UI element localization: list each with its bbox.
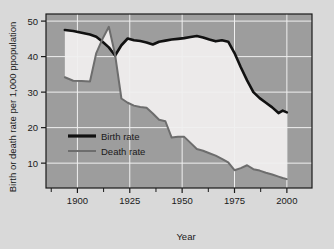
- line-chart: 19001925195019752000 1020304050 Birth ra…: [0, 0, 334, 249]
- x-axis-title: Year: [176, 231, 195, 242]
- y-tick-label: 30: [27, 87, 38, 98]
- y-tick-label: 20: [27, 122, 38, 133]
- y-axis-title: Birth or death rate per 1,000 ppopulatio…: [7, 22, 18, 193]
- chart-figure: 19001925195019752000 1020304050 Birth ra…: [0, 0, 334, 249]
- x-tick-label: 1975: [224, 195, 245, 206]
- y-tick-label: 10: [27, 158, 38, 169]
- y-tick-label: 40: [27, 51, 38, 62]
- legend-label: Death rate: [101, 146, 145, 157]
- x-tick-label: 1950: [172, 195, 193, 206]
- x-tick-label: 1900: [67, 195, 88, 206]
- x-tick-label: 1925: [119, 195, 140, 206]
- x-tick-label: 2000: [276, 195, 297, 206]
- legend-label: Birth rate: [101, 131, 140, 142]
- y-tick-label: 50: [27, 16, 38, 27]
